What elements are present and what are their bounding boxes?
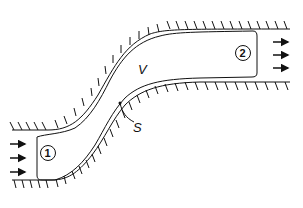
surface-point [119,102,122,105]
surface-pointer [120,103,134,122]
control-surface [37,31,257,180]
outlet-section-marker: 2 [236,46,251,61]
inlet-flow-arrows [10,144,25,172]
lower-wall [12,82,290,188]
outlet-label: 2 [240,47,246,59]
outlet-flow-arrows [273,42,288,68]
flow-diagram: V S 1 2 [0,0,303,208]
inlet-label: 1 [45,147,51,159]
volume-label: V [138,62,148,77]
surface-label: S [133,120,142,135]
inlet-section-marker: 1 [41,146,56,161]
upper-wall [10,21,290,130]
